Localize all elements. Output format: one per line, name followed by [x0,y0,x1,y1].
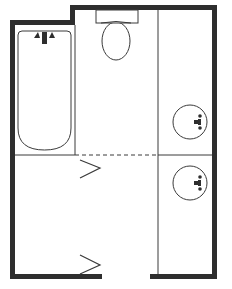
right-wall [212,5,217,279]
door-swing-icon-lower [80,255,100,274]
sink-basin [173,105,207,139]
door-swing-marks [80,160,100,274]
bathtub [18,31,71,150]
door-swing-icon-upper [80,160,100,178]
sink-faucet-icon [194,175,202,191]
sink-upper [173,105,207,139]
top-wall [70,5,217,10]
sink-faucet-icon [194,114,202,130]
toilet [96,10,138,60]
sink-lower [173,166,207,200]
top-left-wall [10,20,75,25]
bathtub-outline [18,31,71,150]
bottom-left-wall [10,274,102,279]
bottom-right-wall [150,274,217,279]
left-wall [10,20,15,279]
toilet-bowl [102,22,130,60]
bathroom-floor-plan [0,0,232,289]
sink-basin [173,166,207,200]
bathtub-faucet-icon [34,32,55,44]
